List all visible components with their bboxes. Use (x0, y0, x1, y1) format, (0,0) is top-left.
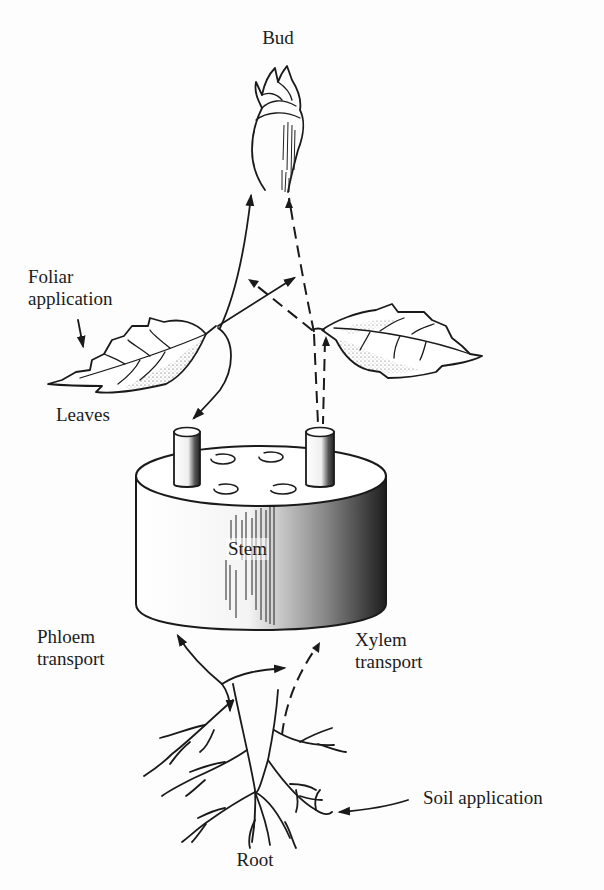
label-root: Root (225, 849, 285, 871)
xylem-cross-arrowhead (248, 279, 259, 288)
xylem-arrowhead-leaf (322, 336, 330, 346)
xylem-dashed-line-2 (323, 340, 325, 424)
diagram-canvas: Bud Foliar application Leaves Stem Phloe… (0, 0, 604, 890)
label-leaves: Leaves (56, 404, 110, 426)
soil-application-arrow (340, 800, 408, 812)
root-drawing (144, 684, 346, 848)
label-stem: Stem (226, 538, 269, 560)
xylem-arrowhead-stem (312, 642, 320, 653)
label-phloem-line1: Phloem (37, 626, 95, 648)
label-bud: Bud (250, 27, 306, 49)
label-xylem-line2: transport (355, 651, 423, 673)
phloem-arrow-up-to-stem (178, 636, 222, 684)
xylem-dashed-line-1 (314, 334, 318, 424)
xylem-arrowhead-bud (285, 198, 293, 208)
label-xylem-line1: Xylem (355, 629, 407, 651)
transport-illustration (0, 0, 604, 890)
label-phloem-line2: transport (37, 648, 105, 670)
label-foliar-line2: application (28, 288, 112, 310)
foliar-application-arrow (78, 320, 83, 346)
xylem-arrow-to-bud (289, 198, 314, 332)
bud-drawing (252, 66, 303, 192)
stem-cylinder-drawing (136, 428, 386, 631)
xylem-cross-arrow (252, 282, 312, 330)
left-leaf-drawing (48, 318, 216, 393)
label-soil-application: Soil application (423, 787, 543, 809)
label-foliar-line1: Foliar (28, 266, 73, 288)
right-leaf-drawing (312, 304, 482, 378)
xylem-arrow-up-from-root (282, 645, 318, 735)
phloem-arrow-to-xylem (222, 668, 284, 684)
